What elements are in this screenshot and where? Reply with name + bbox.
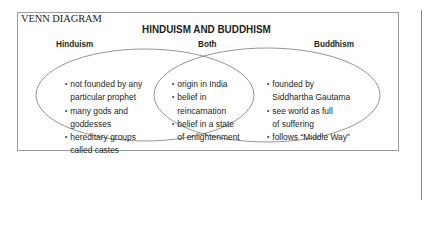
item-text: see world as full — [272, 105, 333, 116]
item-text: not founded by any — [70, 78, 142, 89]
list-item: • many gods and — [65, 104, 142, 117]
item-text: belief in — [177, 91, 206, 102]
buddhism-items: • founded by Siddhartha Gautama • see wo… — [267, 77, 350, 143]
item-text: many gods and — [70, 105, 128, 116]
item-text: belief in a state — [177, 118, 234, 129]
list-item: • not founded by any — [65, 77, 142, 90]
item-text: follows “Middle Way” — [272, 131, 350, 142]
item-text: particular prophet — [70, 91, 136, 102]
item-text: goddesses — [70, 118, 111, 129]
list-item-continuation: goddesses — [65, 117, 142, 130]
hinduism-items: • not founded by any particular prophet … — [65, 77, 142, 157]
list-item-continuation: reincarnation — [172, 104, 240, 117]
list-item-continuation: Siddhartha Gautama — [267, 90, 350, 103]
list-item-continuation: particular prophet — [65, 90, 142, 103]
list-item: • origin in India — [172, 77, 240, 90]
bullet-icon: • — [65, 104, 67, 117]
bullet-icon: • — [172, 90, 174, 103]
bullet-icon: • — [172, 117, 174, 130]
item-text: origin in India — [177, 78, 227, 89]
list-item: • founded by — [267, 77, 350, 90]
list-item: • belief in — [172, 90, 240, 103]
item-text: founded by — [272, 78, 314, 89]
item-text: Siddhartha Gautama — [272, 91, 350, 102]
item-text: hereditary groups — [70, 131, 136, 142]
item-text: of suffering — [272, 118, 314, 129]
list-item: • see world as full — [267, 104, 350, 117]
list-item-continuation: of enlightenment — [172, 130, 240, 143]
item-text: of enlightenment — [177, 131, 239, 142]
bullet-icon: • — [65, 77, 67, 90]
bullet-icon: • — [267, 77, 269, 90]
list-item-continuation: of suffering — [267, 117, 350, 130]
bullet-icon: • — [267, 130, 269, 143]
item-text: reincarnation — [177, 105, 226, 116]
list-item: • hereditary groups — [65, 130, 142, 143]
bullet-icon: • — [172, 77, 174, 90]
list-item-continuation: called castes — [65, 143, 142, 156]
list-item: • belief in a state — [172, 117, 240, 130]
item-text: called castes — [70, 144, 119, 155]
bullet-icon: • — [267, 104, 269, 117]
both-items: • origin in India • belief in reincarnat… — [172, 77, 240, 143]
list-item: • follows “Middle Way” — [267, 130, 350, 143]
bullet-icon: • — [65, 130, 67, 143]
